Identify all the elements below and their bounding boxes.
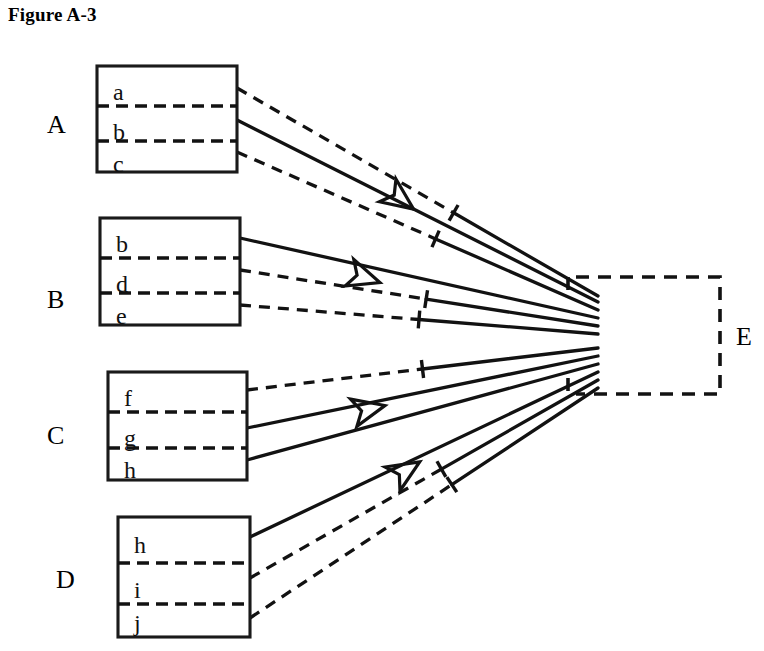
item-label-g: g xyxy=(124,425,136,451)
edge-solid-b-0 xyxy=(240,238,598,318)
item-label-i: i xyxy=(134,577,141,603)
group-boxes-layer: abcAbdeBfghChijD xyxy=(47,66,250,637)
item-label-f: f xyxy=(124,385,132,411)
figure-page: Figure A-3 abcAbdeBfghChijD E xyxy=(0,0,764,651)
item-label-d: d xyxy=(116,271,128,297)
item-label-h: h xyxy=(124,457,136,483)
edge-dashed-a-0 xyxy=(237,88,454,213)
item-label-a: a xyxy=(113,79,124,105)
arrowhead-2 xyxy=(351,392,388,426)
group-label-d: D xyxy=(56,565,75,594)
item-label-c: c xyxy=(113,151,124,177)
edge-solid-a-1 xyxy=(237,120,598,302)
edge-transition-tick-11 xyxy=(447,477,457,492)
edge-tail-solid-d-2 xyxy=(452,388,598,485)
group-label-c: C xyxy=(47,421,64,450)
item-label-e: e xyxy=(116,303,127,329)
group-label-b: B xyxy=(47,285,64,314)
edge-tail-solid-d-1 xyxy=(441,380,598,469)
edge-tail-solid-c-0 xyxy=(423,348,599,369)
edge-transition-tick-6 xyxy=(421,360,423,378)
item-label-b: b xyxy=(113,119,125,145)
item-label-j: j xyxy=(133,610,141,636)
target-label-e: E xyxy=(736,322,752,351)
edge-dashed-d-2 xyxy=(250,485,452,618)
edge-tail-solid-a-0 xyxy=(454,213,598,296)
arrowhead-chevron-0 xyxy=(380,179,422,220)
item-label-b: b xyxy=(116,231,128,257)
diagram-canvas: abcAbdeBfghChijD E xyxy=(0,0,764,651)
edge-dashed-b-2 xyxy=(240,305,419,320)
arrowhead-0 xyxy=(380,179,422,220)
arrowhead-chevron-2 xyxy=(351,392,388,426)
edge-dashed-c-0 xyxy=(247,369,423,390)
group-label-a: A xyxy=(47,110,66,139)
item-label-h: h xyxy=(134,532,146,558)
arrowheads-layer xyxy=(345,179,427,491)
edge-solid-d-0 xyxy=(250,372,598,537)
edges-layer xyxy=(232,81,598,625)
edge-transition-tick-5 xyxy=(418,311,419,329)
edge-transition-tick-4 xyxy=(425,290,428,308)
edge-solid-c-2 xyxy=(247,364,598,460)
